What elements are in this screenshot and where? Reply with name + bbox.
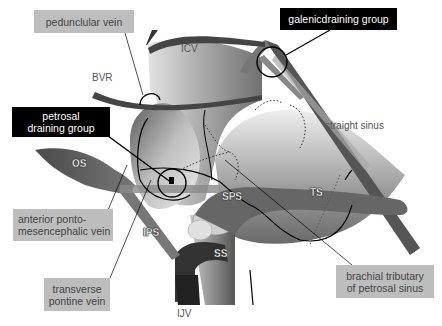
callout-text-line1: petrosal [42,110,79,122]
label-icv: ICV [181,43,198,54]
label-ss: SS [214,248,227,259]
callout-text: galenicdraining group [288,13,388,25]
label-ijv: IJV [177,308,191,319]
callout-transverse-pontine-vein: transverse pontine vein [44,278,110,311]
callout-text-line1: anterior ponto- [18,213,86,225]
callout-text-line1: transverse [52,283,101,295]
label-os: OS [72,158,86,169]
callout-text-line2: of petrosal sinus [347,282,423,294]
label-ts: TS [310,187,323,198]
callout-text: pedunclular vein [46,16,122,28]
ijv [175,275,200,305]
callout-text-line2: pontine vein [49,295,106,307]
callout-anterior-ponto-mesencephalic-vein: anterior ponto- mesencephalic vein [13,209,113,241]
callout-text-line2: mesencephalic vein [18,225,110,237]
label-straight-sinus: straight sinus [325,120,384,131]
callout-text-line2: draining group [27,122,94,134]
callout-brachial-tributary: brachial tributary of petrosal sinus [336,265,434,298]
callout-peduncular-vein: pedunclular vein [34,10,134,33]
callout-text-line1: brachial tributary [346,270,424,282]
callout-petrosal-draining-group: petrosal draining group [12,107,110,137]
callout-galenic-draining-group: galenicdraining group [280,8,397,30]
label-bvr: BVR [92,72,113,83]
label-sps: SPS [222,191,242,202]
label-ips: IPS [143,227,159,238]
